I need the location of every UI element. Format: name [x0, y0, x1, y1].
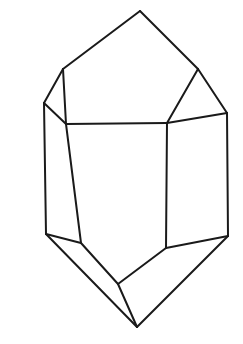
edge-front-top-horizontal [66, 123, 167, 124]
crystal-drawing [0, 0, 243, 344]
right-prism-face [166, 113, 228, 248]
edge-right-outer-vertical [227, 113, 228, 236]
edge-front-right-vertical [166, 123, 167, 248]
crystal-figure [0, 0, 243, 344]
